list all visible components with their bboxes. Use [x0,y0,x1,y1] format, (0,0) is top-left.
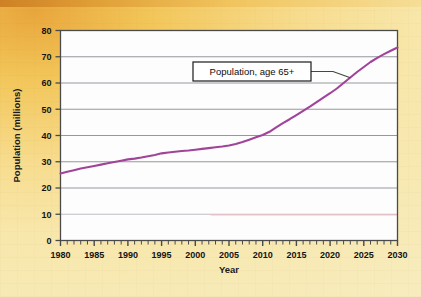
chart-figure: 0102030405060708019801985199019952000200… [0,0,421,297]
x-tick-label-1995: 1995 [152,250,172,260]
x-tick-label-2015: 2015 [286,250,306,260]
x-axis-title: Year [219,264,239,275]
y-tick-label-80: 80 [41,26,51,36]
y-tick-label-50: 50 [41,105,51,115]
y-tick-label-40: 40 [41,131,51,141]
y-tick-label-60: 60 [41,78,51,88]
x-tick-label-2000: 2000 [185,250,205,260]
x-tick-label-2010: 2010 [253,250,273,260]
x-tick-label-2005: 2005 [219,250,239,260]
x-tick-label-1980: 1980 [50,250,70,260]
x-axis-minor-ticks [61,241,398,247]
x-tick-label-1990: 1990 [118,250,138,260]
x-tick-label-2025: 2025 [354,250,374,260]
y-tick-label-0: 0 [46,236,51,246]
x-tick-label-2030: 2030 [387,250,407,260]
population-line-chart: 0102030405060708019801985199019952000200… [0,0,421,297]
y-tick-label-30: 30 [41,157,51,167]
x-tick-label-1985: 1985 [84,250,104,260]
x-axis-labels: 1980198519901995200020052010201520202025… [50,250,407,260]
y-axis-title: Population (millions) [11,89,22,183]
y-axis: 01020304050607080 [41,26,60,246]
y-tick-label-20: 20 [41,183,51,193]
x-tick-label-2020: 2020 [320,250,340,260]
y-tick-label-10: 10 [41,210,51,220]
y-tick-label-70: 70 [41,52,51,62]
callout-label: Population, age 65+ [210,66,295,77]
